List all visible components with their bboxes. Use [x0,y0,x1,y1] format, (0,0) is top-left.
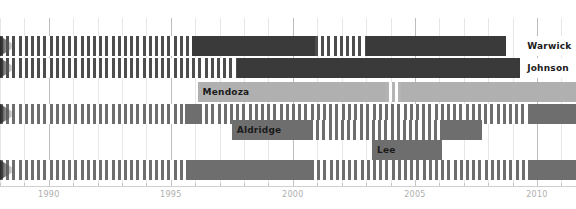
timeline-segment-solid[interactable] [187,160,311,180]
timeline-segment-solid[interactable] [442,120,482,140]
x-axis-tick [342,183,343,186]
timeline-segment-hatch[interactable] [0,36,192,56]
x-axis-tick [122,183,123,186]
x-axis-tick [268,183,269,186]
x-axis-line [0,186,576,187]
timeline-segment-solid[interactable] [531,160,576,180]
x-axis-tick [24,183,25,186]
timeline-row[interactable] [0,140,576,160]
x-axis-tick [439,183,440,186]
x-axis-tick [98,183,99,186]
series-label-mendoza: Mendoza [203,88,250,97]
x-axis-tick [73,183,74,186]
series-label-aldridge: Aldridge [237,126,282,135]
x-axis-tick [464,183,465,186]
x-axis-tick [513,183,514,186]
x-axis-tick [220,183,221,186]
x-axis-tick [244,183,245,186]
timeline-row[interactable] [0,160,576,180]
x-axis-tick [366,183,367,186]
timeline-segment-solid[interactable] [192,36,315,56]
timeline-segment-hatch[interactable] [0,160,187,180]
x-axis-tick [391,183,392,186]
x-axis-tick [195,183,196,186]
x-axis-tick [317,183,318,186]
timeline-segment-hatch[interactable] [311,160,531,180]
x-axis-tick [537,181,538,186]
x-axis-tick-label: 1990 [38,190,60,199]
x-axis-tick [561,183,562,186]
timeline-row[interactable] [0,82,576,102]
timeline-row[interactable] [0,58,576,78]
x-axis-tick-label: 2000 [282,190,304,199]
x-axis-tick-label: 2005 [404,190,426,199]
timeline-row[interactable] [0,36,576,56]
x-axis-tick [146,183,147,186]
series-label-lee: Lee [377,146,396,155]
timeline-row[interactable] [0,120,576,140]
timeline-segment-solid[interactable] [366,36,506,56]
timeline-chart: 19901995200020052010WarwickJohnsonMendoz… [0,0,576,209]
timeline-segment-hatch[interactable] [310,120,442,140]
x-axis-tick [0,183,1,186]
chart-plot-area: 19901995200020052010WarwickJohnsonMendoz… [0,0,576,209]
x-axis-tick-label: 1995 [160,190,182,199]
x-axis-tick-label: 2010 [526,190,548,199]
series-label-warwick: Warwick [527,42,571,51]
timeline-segment-hatch[interactable] [0,58,237,78]
timeline-segment-solid[interactable] [401,82,576,102]
x-axis-tick [49,181,50,186]
timeline-segment-hatch[interactable] [315,36,366,56]
x-axis-tick [171,181,172,186]
x-axis-tick [415,181,416,186]
x-axis-tick [488,183,489,186]
x-axis-tick [293,181,294,186]
series-label-johnson: Johnson [527,64,569,73]
timeline-segment-hatch[interactable] [386,82,402,102]
